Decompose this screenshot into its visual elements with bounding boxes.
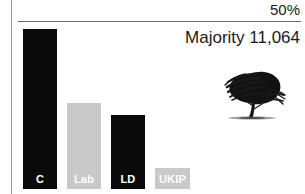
bar-label-ld: LD	[111, 168, 145, 189]
bar-label-lab: Lab	[67, 168, 101, 189]
bar-ld[interactable]: LD	[111, 115, 145, 189]
oak-tree-icon	[219, 66, 289, 124]
bar-ukip[interactable]: UKIP	[155, 168, 190, 189]
bar-label-ukip: UKIP	[155, 168, 190, 189]
bar-column-c	[23, 29, 57, 189]
bar-c[interactable]: C	[23, 29, 57, 189]
bar-lab[interactable]: Lab	[67, 103, 101, 189]
bar-label-c: C	[23, 168, 57, 189]
result-bar-chart-card: 50% Majority 11,064 CLabLDUKIP	[0, 0, 305, 194]
